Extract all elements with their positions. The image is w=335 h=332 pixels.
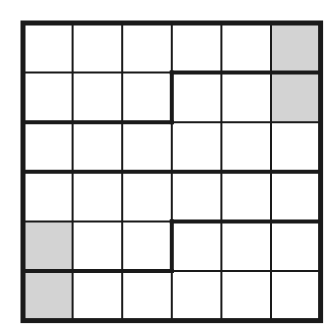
grid-cell[interactable]	[172, 221, 222, 271]
shaded-cell[interactable]	[271, 23, 321, 73]
grid-cell[interactable]	[172, 271, 222, 321]
grid-cell[interactable]	[73, 23, 123, 73]
grid-cell[interactable]	[172, 122, 222, 172]
grid-cell[interactable]	[221, 271, 271, 321]
grid-cell[interactable]	[271, 221, 321, 271]
grid-cell[interactable]	[221, 23, 271, 73]
grid-cell[interactable]	[172, 73, 222, 123]
shaded-cell[interactable]	[23, 221, 73, 271]
grid-cell[interactable]	[23, 172, 73, 222]
grid-cell[interactable]	[221, 221, 271, 271]
grid-cell[interactable]	[73, 221, 123, 271]
grid-cell[interactable]	[23, 23, 73, 73]
shaded-cell[interactable]	[23, 271, 73, 321]
grid-cell[interactable]	[122, 221, 172, 271]
grid-cell[interactable]	[73, 271, 123, 321]
grid-cell[interactable]	[73, 172, 123, 222]
grid-cell[interactable]	[73, 122, 123, 172]
grid-cell[interactable]	[221, 122, 271, 172]
grid-cell[interactable]	[271, 122, 321, 172]
grid-cell[interactable]	[271, 271, 321, 321]
grid-cell[interactable]	[122, 172, 172, 222]
grid-cell[interactable]	[172, 172, 222, 222]
grid-cell[interactable]	[271, 172, 321, 222]
grid-cell[interactable]	[73, 73, 123, 123]
grid-cell[interactable]	[122, 73, 172, 123]
grid-cell[interactable]	[221, 172, 271, 222]
grid-cell[interactable]	[221, 73, 271, 123]
grid-cell[interactable]	[122, 23, 172, 73]
grid-cell[interactable]	[23, 73, 73, 123]
shaded-cell[interactable]	[271, 73, 321, 123]
grid-cell[interactable]	[122, 122, 172, 172]
grid-cell[interactable]	[172, 23, 222, 73]
grid-cell[interactable]	[23, 122, 73, 172]
grid-cell[interactable]	[122, 271, 172, 321]
puzzle-grid	[0, 0, 335, 332]
